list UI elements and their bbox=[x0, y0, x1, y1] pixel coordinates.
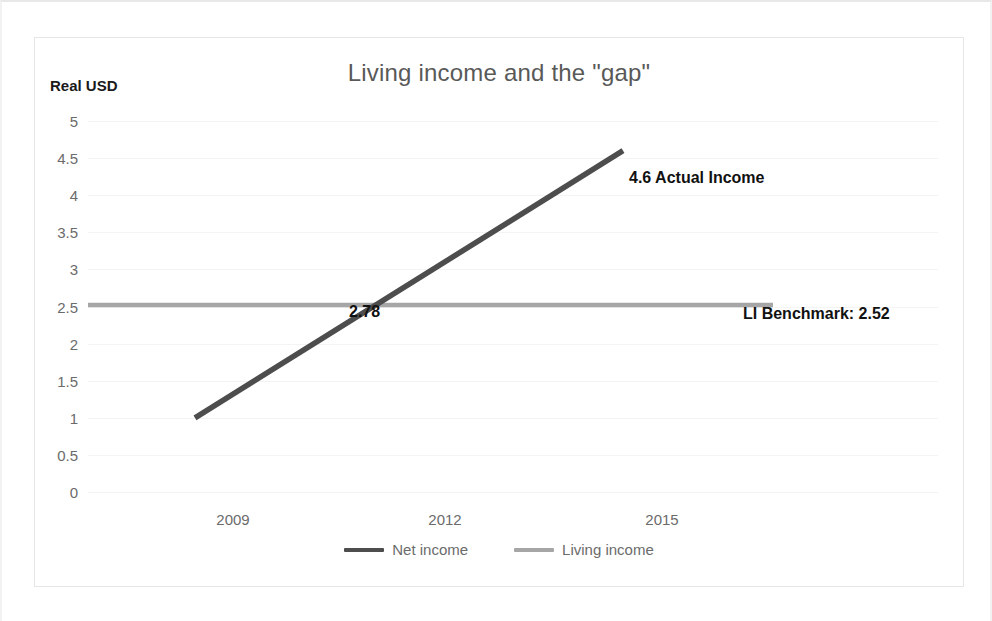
legend-item-net-income[interactable]: Net income bbox=[344, 541, 468, 558]
chart-frame[interactable]: Living income and the "gap" Real USD 5 4… bbox=[34, 37, 964, 587]
x-tick-label: 2009 bbox=[216, 511, 249, 528]
legend-item-living-income[interactable]: Living income bbox=[514, 541, 654, 558]
legend-swatch-net-income bbox=[344, 548, 384, 552]
annotation-crossing-value: 2.78 bbox=[349, 303, 380, 321]
y-tick-label: 0.5 bbox=[57, 446, 78, 463]
annotation-actual-income: 4.6 Actual Income bbox=[629, 169, 764, 187]
chart-legend: Net income Living income bbox=[35, 541, 963, 558]
y-tick-label: 0 bbox=[70, 484, 78, 501]
y-tick-label: 2 bbox=[70, 335, 78, 352]
y-tick-label: 4.5 bbox=[57, 150, 78, 167]
annotation-li-benchmark: LI Benchmark: 2.52 bbox=[743, 305, 890, 323]
legend-label-living-income: Living income bbox=[562, 541, 654, 558]
chart-title: Living income and the "gap" bbox=[35, 59, 963, 87]
y-tick-label: 3.5 bbox=[57, 224, 78, 241]
x-tick-label: 2015 bbox=[645, 511, 678, 528]
x-tick-label: 2012 bbox=[428, 511, 461, 528]
series-line-net-income bbox=[195, 151, 623, 418]
y-tick-label: 1 bbox=[70, 409, 78, 426]
y-axis-title: Real USD bbox=[50, 77, 118, 94]
y-tick-label: 5 bbox=[70, 113, 78, 130]
legend-label-net-income: Net income bbox=[392, 541, 468, 558]
legend-swatch-living-income bbox=[514, 548, 554, 552]
y-tick-label: 3 bbox=[70, 261, 78, 278]
gridline bbox=[88, 492, 938, 493]
page-surface: Living income and the "gap" Real USD 5 4… bbox=[0, 0, 992, 621]
y-tick-label: 2.5 bbox=[57, 298, 78, 315]
y-tick-label: 1.5 bbox=[57, 372, 78, 389]
y-tick-label: 4 bbox=[70, 187, 78, 204]
